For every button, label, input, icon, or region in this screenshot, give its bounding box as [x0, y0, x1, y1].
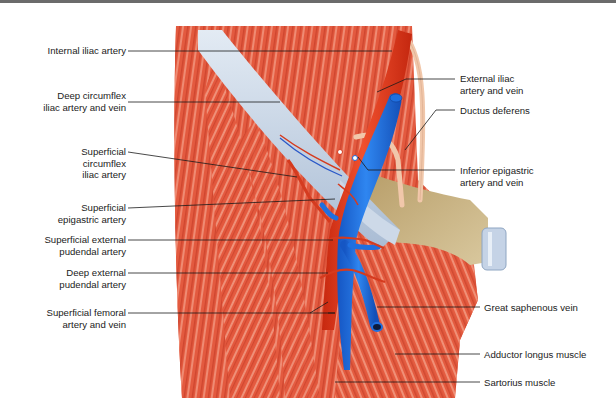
label-inferior-epigastric-artery-and-vein: Inferior epigastric artery and vein [460, 165, 610, 188]
label-superficial-femoral-artery-and-vein: Superficial femoral artery and vein [6, 307, 126, 330]
label-ductus-deferens: Ductus deferens [460, 105, 610, 117]
label-sartorius-muscle: Sartorius muscle [484, 377, 614, 389]
label-internal-iliac-artery: Internal iliac artery [6, 45, 126, 57]
label-adductor-longus-muscle: Adductor longus muscle [484, 349, 614, 361]
label-external-iliac-artery-and-vein: External iliac artery and vein [460, 73, 610, 96]
label-great-saphenous-vein: Great saphenous vein [484, 302, 614, 314]
label-superficial-external-pudendal-artery: Superficial external pudendal artery [6, 234, 126, 257]
label-deep-circumflex-iliac-artery-and-vein: Deep circumflex iliac artery and vein [6, 90, 126, 113]
label-deep-external-pudendal-artery: Deep external pudendal artery [6, 267, 126, 290]
label-superficial-epigastric-artery: Superficial epigastric artery [6, 202, 126, 225]
label-superficial-circumflex-iliac-artery: Superficial circumflex iliac artery [6, 146, 126, 181]
